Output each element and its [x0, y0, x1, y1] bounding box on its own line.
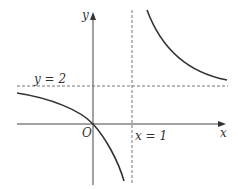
- curve-left-branch: [17, 93, 124, 181]
- curve-right-branch: [147, 10, 227, 80]
- graph: y x O y = 2 x = 1: [0, 0, 238, 189]
- x-axis-label: x: [220, 126, 227, 140]
- horizontal-asymptote-label: y = 2: [33, 72, 66, 86]
- vertical-asymptote-label: x = 1: [135, 129, 167, 143]
- y-axis-label: y: [81, 8, 89, 22]
- origin-label: O: [82, 126, 92, 140]
- y-axis-arrow-icon: [90, 12, 96, 20]
